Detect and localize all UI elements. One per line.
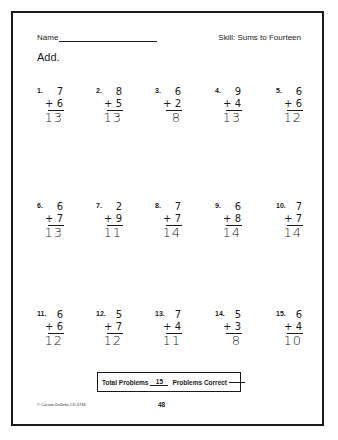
copyright: © Carson-Dellosa CD-3746 [37, 402, 86, 407]
problem-number: 6. [37, 202, 43, 209]
problem-answer: 8 [232, 334, 241, 348]
problem-addend: + 4 [223, 98, 241, 109]
problem-14: 14. 5 + 3 8 [215, 309, 259, 349]
problem-number: 12. [96, 310, 106, 317]
problem-8: 8. 7 + 7 14 [155, 201, 199, 241]
name-label: Name [37, 33, 58, 42]
problem-answer: 14 [222, 226, 241, 240]
problem-top-number: 6 [57, 309, 63, 320]
problem-addend: + 3 [223, 321, 241, 332]
problem-answer: 11 [103, 226, 122, 240]
problem-top-number: 7 [296, 201, 302, 212]
problem-addend: + 6 [45, 98, 63, 109]
skill-label: Skill: Sums to Fourteen [218, 33, 301, 42]
problem-answer: 13 [44, 111, 63, 125]
name-input-line[interactable] [59, 41, 157, 42]
problem-12: 12. 5 + 7 12 [96, 309, 140, 349]
problem-5: 5. 6 + 6 12 [276, 86, 320, 126]
problem-number: 1. [37, 87, 43, 94]
problem-1: 1. 7 + 6 13 [37, 86, 81, 126]
total-problems-label: Total Problems [102, 379, 148, 386]
problem-top-number: 6 [57, 201, 63, 212]
problem-top-number: 5 [235, 309, 241, 320]
problem-number: 5. [276, 87, 282, 94]
problem-11: 11. 6 + 6 12 [37, 309, 81, 349]
problem-number: 10. [276, 202, 286, 209]
problem-addend: + 7 [104, 321, 122, 332]
problem-9: 9. 6 + 8 14 [215, 201, 259, 241]
problem-top-number: 2 [116, 201, 122, 212]
problem-number: 13. [155, 310, 165, 317]
problem-answer: 11 [162, 334, 181, 348]
problem-addend: + 7 [163, 213, 181, 224]
problem-top-number: 6 [296, 86, 302, 97]
problem-top-number: 9 [235, 86, 241, 97]
problem-answer: 12 [103, 334, 122, 348]
problem-4: 4. 9 + 4 13 [215, 86, 259, 126]
problem-answer: 12 [44, 334, 63, 348]
problem-answer: 8 [172, 111, 181, 125]
problem-3: 3. 6 + 2 8 [155, 86, 199, 126]
problem-answer: 13 [44, 226, 63, 240]
problem-10: 10. 7 + 7 14 [276, 201, 320, 241]
problem-addend: + 7 [284, 213, 302, 224]
problem-15: 15. 6 + 4 10 [276, 309, 320, 349]
problem-top-number: 5 [116, 309, 122, 320]
problems-correct-label: Problems Correct [172, 379, 227, 386]
problem-addend: + 4 [163, 321, 181, 332]
problem-top-number: 7 [175, 201, 181, 212]
problem-answer: 12 [283, 111, 302, 125]
problem-addend: + 8 [223, 213, 241, 224]
problem-addend: + 5 [104, 98, 122, 109]
totals-box: Total Problems 15 Problems Correct [97, 372, 241, 392]
problem-2: 2. 8 + 5 13 [96, 86, 140, 126]
problem-top-number: 6 [235, 201, 241, 212]
problem-top-number: 6 [296, 309, 302, 320]
problem-answer: 14 [162, 226, 181, 240]
problem-addend: + 6 [284, 98, 302, 109]
problem-number: 7. [96, 202, 102, 209]
problem-addend: + 2 [163, 98, 181, 109]
problem-answer: 13 [222, 111, 241, 125]
problem-addend: + 7 [45, 213, 63, 224]
problem-top-number: 6 [175, 86, 181, 97]
page-number: 48 [158, 401, 165, 408]
problem-7: 7. 2 + 9 11 [96, 201, 140, 241]
problem-number: 8. [155, 202, 161, 209]
problem-top-number: 7 [175, 309, 181, 320]
instruction: Add. [37, 51, 60, 63]
problem-answer: 10 [283, 334, 302, 348]
problem-number: 9. [215, 202, 221, 209]
problem-6: 6. 6 + 7 13 [37, 201, 81, 241]
problem-13: 13. 7 + 4 11 [155, 309, 199, 349]
problem-answer: 13 [103, 111, 122, 125]
problem-addend: + 4 [284, 321, 302, 332]
problem-top-number: 8 [116, 86, 122, 97]
problem-top-number: 7 [57, 86, 63, 97]
problem-number: 4. [215, 87, 221, 94]
problem-number: 11. [37, 310, 46, 317]
total-problems-value: 15 [150, 378, 168, 386]
problem-number: 3. [155, 87, 161, 94]
problem-number: 15. [276, 310, 286, 317]
problem-addend: + 9 [104, 213, 122, 224]
problems-correct-input[interactable] [229, 382, 245, 383]
problem-answer: 14 [283, 226, 302, 240]
problem-number: 14. [215, 310, 225, 317]
problem-number: 2. [96, 87, 102, 94]
problem-addend: + 6 [45, 321, 63, 332]
